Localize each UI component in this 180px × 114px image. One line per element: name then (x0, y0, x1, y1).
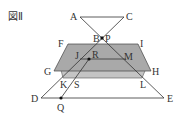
point-Q (59, 96, 62, 99)
figure-title: 図Ⅱ (8, 11, 23, 22)
label-S: S (74, 79, 80, 90)
label-F: F (58, 38, 64, 49)
plane-FIHG (54, 44, 151, 71)
label-E: E (167, 93, 173, 104)
label-C: C (126, 11, 133, 22)
label-H: H (152, 66, 159, 77)
point-P (101, 37, 104, 40)
geometry-figure: 図Ⅱ A C B P F I J R M G H K S L D E Q (0, 0, 180, 114)
point-R (87, 57, 90, 60)
label-J: J (75, 50, 79, 61)
label-A: A (70, 11, 78, 22)
label-D: D (31, 93, 38, 104)
label-R: R (92, 49, 99, 60)
label-K: K (60, 79, 68, 90)
label-B: B (93, 33, 100, 44)
label-L: L (140, 79, 146, 90)
label-P: P (105, 33, 111, 44)
label-M: M (124, 51, 133, 62)
label-I: I (140, 38, 143, 49)
label-Q: Q (57, 102, 65, 113)
label-G: G (44, 66, 51, 77)
